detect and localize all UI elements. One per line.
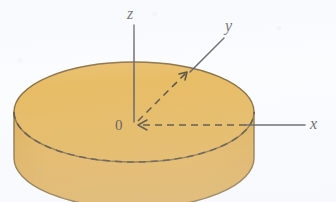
cylinder-diagram-svg xyxy=(0,0,336,202)
z-axis-label: z xyxy=(127,6,133,22)
x-axis-label: x xyxy=(310,116,317,132)
origin-label: 0 xyxy=(115,118,123,133)
y-axis-label: y xyxy=(225,18,232,34)
figure-container: z y x 0 xyxy=(0,0,336,202)
y-label-leader-line xyxy=(190,38,224,72)
